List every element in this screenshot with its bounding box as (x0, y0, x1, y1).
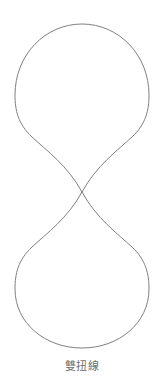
lemniscate-curve-plot (0, 0, 164, 386)
figure-panel: 雙扭線 (0, 0, 164, 386)
figure-caption: 雙扭線 (0, 360, 164, 374)
